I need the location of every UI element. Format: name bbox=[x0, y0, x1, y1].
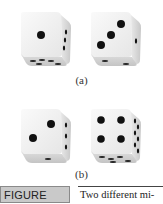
panel-a-caption: (a) bbox=[0, 74, 163, 86]
die-b-right bbox=[88, 107, 142, 165]
figure-label: FIGURE 18.9 bbox=[0, 186, 70, 203]
die-a-left bbox=[18, 10, 72, 68]
die-b-left bbox=[18, 107, 72, 165]
panel-b-caption: (b) bbox=[0, 168, 163, 180]
figure-caption-text: Two different mi- bbox=[80, 189, 154, 200]
die-a-right bbox=[88, 10, 142, 68]
figure-label-prefix: FIGURE bbox=[4, 189, 47, 201]
caption-rule bbox=[78, 186, 163, 187]
